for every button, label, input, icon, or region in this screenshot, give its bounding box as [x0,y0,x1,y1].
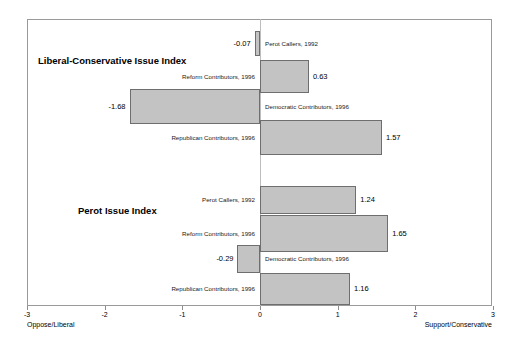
axis-end-label-right: Support/Conservative [425,320,492,329]
x-tick-label-1: -2 [102,310,108,319]
bar-category-label-0-0: Perot Callers, 1992 [265,40,318,48]
x-tick-label-3: 0 [258,310,262,319]
chart-container: Liberal-Conservative Issue Index Perot I… [0,0,516,346]
bar-value-label-0-1: 0.63 [313,72,328,81]
group-title-perot: Perot Issue Index [78,205,157,216]
bar-value-label-1-1: 1.65 [392,229,407,238]
bar-value-label-0-3: 1.57 [386,133,401,142]
bar-category-label-0-3: Republican Contributors, 1996 [171,134,255,142]
bar-group-0-item-2 [130,89,260,124]
bar-value-label-1-3: 1.16 [354,284,369,293]
bar-group-0-item-3 [260,120,382,155]
x-tick-label-4: 1 [336,310,340,319]
bar-category-label-0-2: Democratic Contributors, 1996 [265,103,349,111]
x-tick-label-0: -3 [24,310,30,319]
bar-group-0-item-1 [260,60,309,93]
bar-group-1-item-2 [237,245,260,273]
group-title-liberal-conservative: Liberal-Conservative Issue Index [38,55,186,66]
bar-category-label-1-2: Democratic Contributors, 1996 [265,255,349,263]
bar-value-label-0-2: -1.68 [108,102,125,111]
bar-group-1-item-0 [260,186,356,214]
axis-end-label-left: Oppose/Liberal [27,320,74,329]
bar-category-label-1-1: Reform Contributors, 1996 [182,230,255,238]
bar-group-0-item-0 [255,31,260,56]
bar-group-1-item-3 [260,273,350,305]
x-tick-label-6: 3 [491,310,495,319]
bar-value-label-1-2: -0.29 [216,254,233,263]
x-tick-label-2: -1 [179,310,185,319]
x-tick-label-5: 2 [413,310,417,319]
bar-value-label-0-0: -0.07 [233,39,250,48]
bar-category-label-0-1: Reform Contributors, 1996 [182,73,255,81]
bar-category-label-1-3: Republican Contributors, 1996 [171,285,255,293]
bar-group-1-item-1 [260,215,388,252]
bar-category-label-1-0: Perot Callers, 1992 [202,196,255,204]
bar-value-label-1-0: 1.24 [360,195,375,204]
